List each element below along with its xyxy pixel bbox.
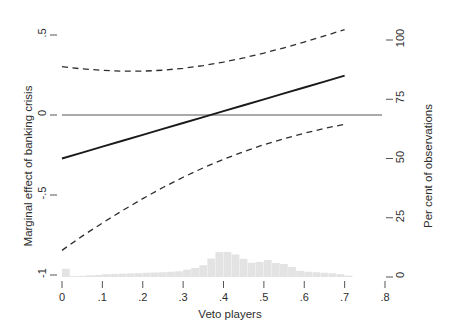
- y-axis-title-right: Per cent of observations: [422, 76, 434, 256]
- x-tick-label: .5: [249, 291, 279, 303]
- histogram-bar: [183, 270, 191, 277]
- histogram-bar: [151, 272, 159, 277]
- series-line: [62, 124, 345, 250]
- histogram-bar: [175, 271, 183, 277]
- histogram-layer: [62, 252, 352, 277]
- histogram-bar: [135, 273, 143, 277]
- histogram-bar: [167, 272, 175, 277]
- histogram-bar: [86, 275, 94, 277]
- histogram-bar: [320, 273, 328, 277]
- histogram-bar: [127, 273, 135, 277]
- y-tick-label-left: 0: [36, 93, 48, 133]
- series-line: [62, 30, 345, 72]
- histogram-bar: [143, 273, 151, 277]
- y-tick-label-left: -.5: [36, 173, 48, 213]
- histogram-bar: [224, 252, 232, 277]
- histogram-bar: [345, 276, 353, 277]
- x-tick-label: 0: [47, 291, 77, 303]
- x-tick-label: .6: [289, 291, 319, 303]
- histogram-bar: [110, 274, 118, 277]
- histogram-bar: [280, 264, 288, 277]
- histogram-bar: [70, 276, 78, 277]
- histogram-bar: [240, 259, 248, 277]
- histogram-bar: [232, 254, 240, 277]
- series-lines: [62, 30, 345, 251]
- histogram-bar: [256, 262, 264, 277]
- histogram-bar: [215, 252, 223, 277]
- y-tick-label-right: 75: [394, 77, 406, 117]
- histogram-bar: [337, 274, 345, 277]
- histogram-bar: [264, 260, 272, 277]
- histogram-bar: [328, 273, 336, 277]
- histogram-bar: [199, 265, 207, 277]
- y-axis-title-left: Marginal effect of banking crisis: [22, 76, 34, 256]
- histogram-bar: [248, 263, 256, 277]
- x-tick-label: .7: [330, 291, 360, 303]
- histogram-bar: [207, 259, 215, 277]
- histogram-bar: [102, 274, 110, 277]
- marginal-effect-chart: [0, 0, 450, 331]
- x-tick-label: .4: [209, 291, 239, 303]
- histogram-bar: [159, 272, 167, 277]
- y-tick-label-left: -1: [36, 253, 48, 293]
- y-tick-label-right: 100: [394, 18, 406, 58]
- histogram-bar: [62, 269, 70, 277]
- histogram-bar: [119, 274, 127, 277]
- histogram-bar: [312, 272, 320, 277]
- y-tick-label-right: 25: [394, 196, 406, 236]
- y-tick-label-right: 50: [394, 137, 406, 177]
- x-tick-label: .2: [128, 291, 158, 303]
- histogram-bar: [288, 267, 296, 277]
- y-tick-label-left: .5: [36, 13, 48, 53]
- histogram-bar: [78, 276, 86, 277]
- histogram-bar: [272, 263, 280, 277]
- series-line: [62, 76, 345, 159]
- axis-ticks: [50, 35, 393, 288]
- histogram-bar: [94, 275, 102, 277]
- x-tick-label: .3: [168, 291, 198, 303]
- histogram-bar: [304, 272, 312, 277]
- x-tick-label: .1: [87, 291, 117, 303]
- histogram-bar: [296, 271, 304, 277]
- y-tick-label-right: 0: [394, 255, 406, 295]
- histogram-bar: [191, 268, 199, 277]
- x-axis-title: Veto players: [175, 308, 285, 320]
